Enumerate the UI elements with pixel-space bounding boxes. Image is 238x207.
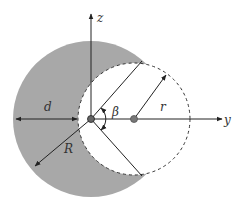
small-circle-center-dot bbox=[131, 116, 138, 123]
z-axis-label: z bbox=[96, 11, 104, 25]
d-label: d bbox=[44, 100, 52, 114]
geometry-diagram: z y d R r β bbox=[0, 0, 238, 207]
y-axis-label: y bbox=[223, 113, 231, 127]
big-radius-label: R bbox=[63, 142, 73, 156]
beta-label: β bbox=[111, 105, 119, 119]
big-circle-center-dot bbox=[88, 116, 95, 123]
